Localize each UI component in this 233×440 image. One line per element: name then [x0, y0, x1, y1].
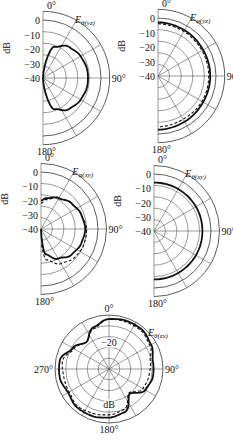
r-tick-label: 0	[35, 15, 40, 26]
r-axis-label: dB	[103, 399, 115, 410]
y-axis-label: dB	[116, 40, 127, 52]
angle-label-90: 90°	[227, 71, 233, 82]
plot-title: Eθ(xy)	[184, 168, 206, 181]
series-simulated	[158, 24, 209, 127]
r-tick-label: 0	[150, 13, 155, 24]
angle-label-0: 0°	[47, 0, 56, 11]
angle-label-0: 0°	[45, 152, 54, 163]
angle-label-180: 180°	[148, 298, 167, 309]
r-tick-label: −30	[139, 57, 155, 68]
r-tick-label: −20	[101, 337, 117, 348]
y-axis-label: dB	[1, 42, 12, 54]
plot-title-subscript: φ(yz)	[196, 17, 211, 25]
angle-label-180: 180°	[152, 144, 171, 155]
plot-title-subscript: θ(yz)	[81, 19, 96, 27]
series-measured	[41, 197, 85, 259]
r-tick-label: −30	[24, 59, 40, 70]
polar-plot-theta_xy: 0°90°180°0−10−20−30−40dBEθ(xy)	[112, 154, 233, 308]
angle-label-0: 0°	[158, 154, 167, 165]
plot-title-subscript: θ(zx)	[154, 332, 169, 340]
r-tick-label: −40	[139, 71, 155, 82]
r-tick-label: −10	[24, 30, 40, 41]
polar-plot-phi_yz: 0°90°180°0−10−20−30−40dBEφ(yz)	[116, 0, 233, 155]
plot-title: Eθ(yz)	[74, 14, 96, 27]
r-tick-label: −10	[22, 181, 38, 192]
spoke-line	[109, 369, 156, 396]
angle-label-180: 180°	[35, 296, 54, 307]
r-tick-label: 0	[33, 167, 38, 178]
plot-title-subscript: θ(xy)	[191, 173, 206, 181]
r-tick-label: −20	[135, 198, 151, 209]
angle-label-0: 0°	[162, 0, 171, 9]
r-tick-label: −20	[22, 196, 38, 207]
y-axis-label: dB	[112, 195, 123, 207]
r-tick-label: −10	[135, 183, 151, 194]
angle-label-90: 90°	[165, 364, 179, 375]
polar-plot-theta_zx: 0°90°180°270°−20dBEθ(zx)	[34, 303, 179, 435]
plot-title-subscript: φ(xy)	[78, 171, 93, 179]
r-tick-label: −20	[139, 42, 155, 53]
r-tick-label: 0	[146, 169, 151, 180]
plot-title: Eφ(yz)	[189, 12, 211, 25]
r-tick-label: −20	[24, 44, 40, 55]
r-tick-label: −40	[24, 73, 40, 84]
angle-label-90: 90°	[112, 73, 126, 84]
angle-label-90: 90°	[109, 224, 123, 235]
r-tick-label: −30	[135, 212, 151, 223]
angle-label-0: 0°	[105, 303, 114, 314]
angle-label-90: 90°	[222, 226, 233, 237]
polar-plot-phi_xy: 0°90°180°0−10−20−30−40dBEφ(xy)	[0, 152, 123, 306]
r-tick-label: −40	[22, 224, 38, 235]
r-tick-label: −10	[139, 28, 155, 39]
plot-title: Eθ(zx)	[147, 327, 169, 340]
angle-label-180: 180°	[100, 424, 119, 435]
spoke-line	[158, 76, 191, 134]
plot-title: Eφ(xy)	[71, 166, 94, 179]
polar-figure: 0°90°180°0−10−20−30−40dBEθ(yz)0°90°180°0…	[0, 0, 233, 440]
y-axis-label: dB	[0, 193, 10, 205]
polar-plot-theta_yz: 0°90°180°0−10−20−30−40dBEθ(yz)	[1, 0, 126, 156]
r-tick-label: −30	[22, 210, 38, 221]
r-tick-label: −40	[135, 226, 151, 237]
angle-label-270: 270°	[34, 364, 53, 375]
